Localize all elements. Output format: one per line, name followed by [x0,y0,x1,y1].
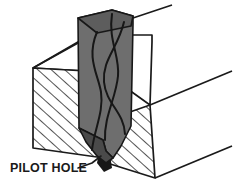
figure-canvas: PILOT HOLE [0,0,236,191]
pilot-hole-label: PILOT HOLE [10,161,87,175]
technical-illustration-figure: PILOT HOLE [0,0,236,191]
